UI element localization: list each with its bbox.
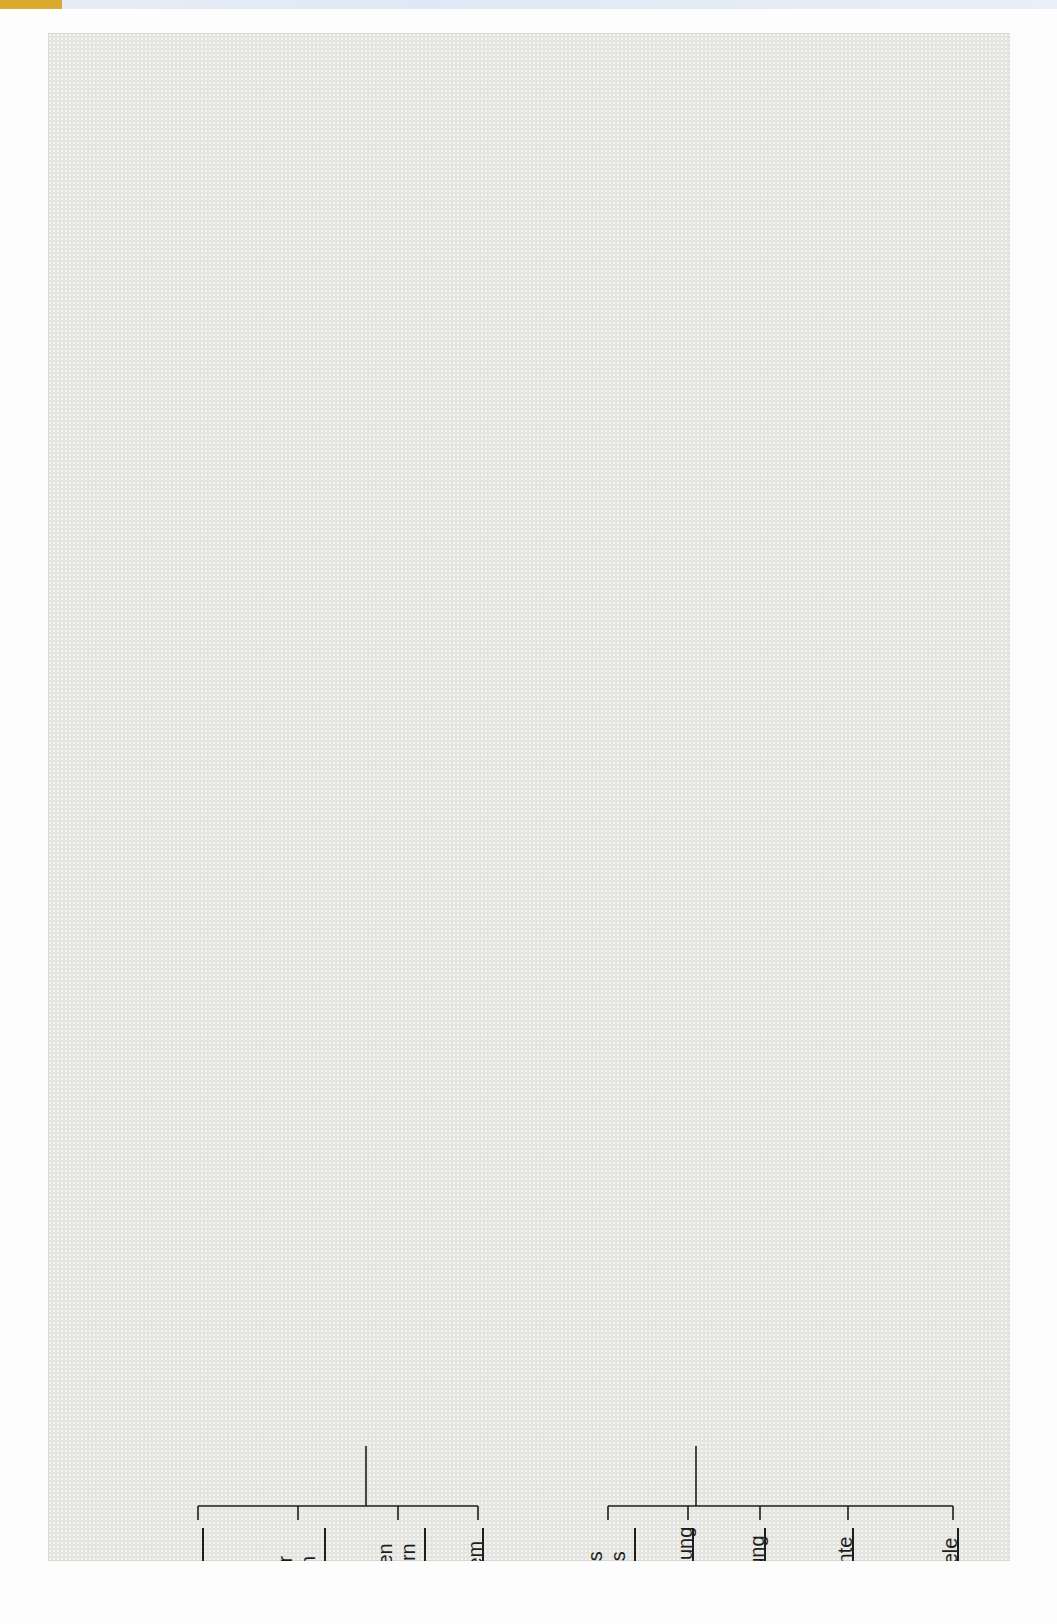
topic-l2-kommunikation-4[interactable]: Ziele	[939, 1538, 962, 1561]
topic-l2-distribution-1[interactable]: Gestaltung der Verkaufsaktivitäten	[274, 1556, 320, 1561]
topic-l2-distribution-2[interactable]: Beziehung zu den Vertriebspartnern	[374, 1543, 420, 1561]
connector-lines	[48, 33, 1010, 1561]
topic-underline	[324, 1528, 326, 1561]
topic-underline	[852, 1528, 854, 1561]
topic-l2-kommunikation-3[interactable]: Instrumente	[834, 1537, 857, 1561]
topic-l2-distribution-3[interactable]: Vertriebssystem	[464, 1541, 487, 1561]
topic-l2-kommunikation-2[interactable]: Etatplanung	[746, 1535, 769, 1561]
topic-l2-kommunikation-1[interactable]: Mediaplanung	[674, 1527, 697, 1561]
topic-underline	[634, 1528, 636, 1561]
topic-underline	[692, 1528, 694, 1561]
topic-underline	[957, 1528, 959, 1561]
topic-underline	[764, 1528, 766, 1561]
mindmap-canvas: NettopreissystemBruttopreissystemPreiszu…	[48, 33, 1010, 1561]
topic-underline	[482, 1528, 484, 1561]
topic-underline	[202, 1528, 204, 1561]
scan-artifact-strip	[0, 0, 1057, 9]
topic-underline	[424, 1528, 426, 1561]
scan-gold-marker	[0, 0, 62, 9]
topic-l2-kommunikation-0[interactable]: Gestaltung des Kommunikationsauftritts	[584, 1551, 630, 1561]
page-root: NettopreissystemBruttopreissystemPreiszu…	[0, 0, 1057, 1624]
branch-node-kommunikationspolitik[interactable]	[48, 1541, 56, 1561]
diagram-viewport: NettopreissystemBruttopreissystemPreiszu…	[48, 33, 1010, 1561]
